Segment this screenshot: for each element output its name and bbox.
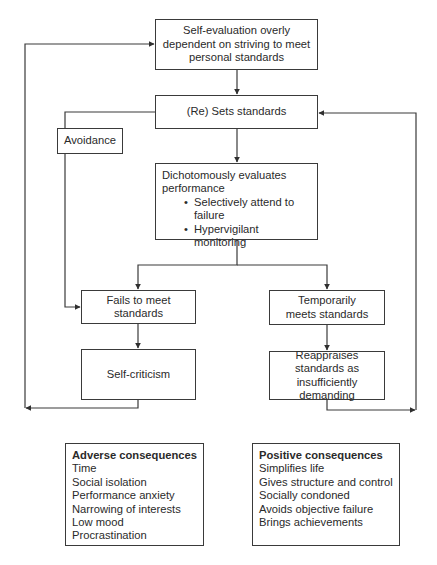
node-self-evaluation-label: Self-evaluation overly dependent on stri… — [160, 24, 313, 64]
adverse-item: Procrastination — [72, 529, 147, 542]
node-self-criticism-label: Self-criticism — [107, 368, 170, 381]
arrow-selfcriticism-to-loop — [26, 400, 138, 408]
node-fails-label: Fails to meet standards — [96, 294, 181, 321]
node-fails: Fails to meet standards — [81, 290, 196, 324]
adverse-item: Time — [72, 462, 96, 475]
node-evaluates-bullets: Selectively attend to failure Hypervigil… — [162, 196, 311, 250]
adverse-item: Performance anxiety — [72, 489, 175, 502]
perfectionism-flow-diagram: Self-evaluation overly dependent on stri… — [0, 0, 437, 565]
avoidance-path — [65, 112, 155, 128]
adverse-item: Social isolation — [72, 476, 147, 489]
node-self-criticism: Self-criticism — [81, 349, 196, 400]
node-self-evaluation: Self-evaluation overly dependent on stri… — [155, 19, 318, 70]
adverse-item: Low mood — [72, 516, 124, 529]
node-avoidance-label: Avoidance — [64, 134, 116, 147]
node-meets: Temporarily meets standards — [269, 290, 385, 325]
positive-consequences-heading: Positive consequences — [259, 449, 383, 462]
positive-item: Brings achievements — [259, 516, 363, 529]
node-evaluates-title-line1: Dichotomously evaluates — [162, 169, 286, 182]
adverse-item: Narrowing of interests — [72, 503, 181, 516]
positive-item: Simplifies life — [259, 462, 324, 475]
positive-item: Socially condoned — [259, 489, 350, 502]
arrow-avoidance-to-fails — [65, 154, 80, 307]
node-sets-standards-label: (Re) Sets standards — [187, 105, 287, 118]
adverse-consequences-heading: Adverse consequences — [72, 449, 197, 462]
arrow-evaluates-to-meets — [237, 265, 327, 289]
node-reappraises-label: Reappraises standards as insufficiently … — [273, 349, 381, 403]
node-avoidance: Avoidance — [57, 128, 123, 154]
positive-consequences-box: Positive consequences Simplifies life Gi… — [252, 443, 400, 546]
node-sets-standards: (Re) Sets standards — [155, 95, 318, 129]
positive-item: Gives structure and control — [259, 476, 393, 489]
adverse-consequences-box: Adverse consequences Time Social isolati… — [65, 443, 204, 546]
bullet-item: Selectively attend to failure — [184, 196, 311, 223]
positive-item: Avoids objective failure — [259, 503, 373, 516]
bullet-item: Hypervigilant monitoring — [184, 223, 311, 250]
node-evaluates-title-line2: performance — [162, 182, 225, 195]
node-reappraises: Reappraises standards as insufficiently … — [269, 351, 385, 400]
node-meets-label: Temporarily meets standards — [282, 294, 372, 321]
node-evaluates: Dichotomously evaluates performance Sele… — [155, 163, 318, 240]
